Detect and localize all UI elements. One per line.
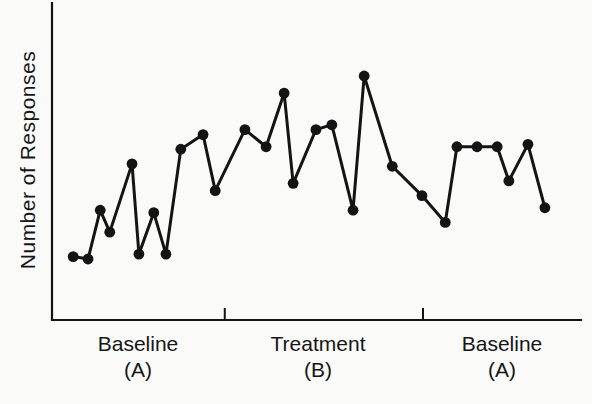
data-point [127, 158, 138, 169]
phase-letter: (A) [98, 357, 179, 383]
data-point [83, 254, 94, 265]
data-point [503, 176, 514, 187]
data-point [95, 205, 106, 216]
phase-name: Treatment [271, 331, 366, 357]
aba-reversal-figure: Number of Responses Baseline (A) Treatme… [0, 0, 592, 404]
y-axis-label: Number of Responses [16, 51, 40, 269]
data-point [492, 141, 503, 152]
data-point [359, 71, 370, 82]
data-point [240, 124, 251, 135]
phase-letter: (A) [462, 357, 543, 383]
data-point [288, 178, 299, 189]
data-point [104, 227, 115, 238]
data-point [148, 207, 159, 218]
data-point [387, 161, 398, 172]
data-point [261, 141, 272, 152]
phase-label-baseline-2: Baseline (A) [462, 331, 543, 383]
data-point [198, 129, 209, 140]
data-point [175, 144, 186, 155]
data-point [279, 88, 290, 99]
phase-name: Baseline [98, 331, 179, 357]
data-point [210, 185, 221, 196]
data-point [523, 139, 534, 150]
data-point [348, 205, 359, 216]
data-point [417, 190, 428, 201]
data-point [326, 119, 337, 130]
data-point [440, 217, 451, 228]
phase-label-treatment: Treatment (B) [271, 331, 366, 383]
response-line [73, 76, 545, 259]
data-point [161, 249, 172, 260]
phase-name: Baseline [462, 331, 543, 357]
data-point [472, 141, 483, 152]
data-point [540, 202, 551, 213]
phase-letter: (B) [271, 357, 366, 383]
data-point [311, 124, 322, 135]
data-point [452, 141, 463, 152]
data-point [68, 251, 79, 262]
phase-label-baseline-1: Baseline (A) [98, 331, 179, 383]
data-point [134, 249, 145, 260]
